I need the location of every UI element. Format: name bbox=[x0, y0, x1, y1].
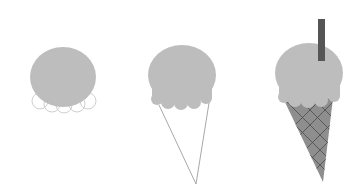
step-3-finished-cone bbox=[275, 19, 345, 190]
ice-cream-steps-drawing bbox=[0, 0, 362, 196]
illustration-canvas bbox=[0, 0, 362, 196]
step-2-scoop-cone-outline bbox=[148, 45, 216, 184]
step-1-scoop-drawing bbox=[30, 47, 96, 113]
wafer-stick bbox=[318, 19, 325, 61]
scoop-circle bbox=[30, 47, 96, 107]
faint-watermark bbox=[198, 6, 208, 16]
cone-outline bbox=[159, 103, 209, 184]
